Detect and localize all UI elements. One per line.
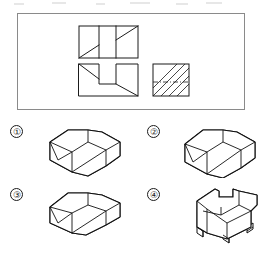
isometric-solid-3 [50,193,120,235]
option-1-number: ① [10,125,23,138]
option-2[interactable]: ② [145,120,260,178]
problem-sheet: ① [0,0,263,259]
option-3[interactable]: ③ [8,183,120,241]
top-view [79,26,138,58]
option-2-figure [165,120,263,178]
section-hatching [145,64,209,96]
side-section-view [145,64,209,96]
option-4-figure [167,183,263,245]
isometric-solid-2 [185,130,255,178]
option-3-figure [28,183,128,239]
option-2-number: ② [147,125,160,138]
views-canvas [18,14,246,111]
option-4-number: ④ [147,188,160,201]
front-view [79,64,138,96]
option-4[interactable]: ④ [145,183,260,245]
option-3-number: ③ [10,188,23,201]
isometric-solid-1 [50,130,120,176]
option-1-figure [28,120,128,178]
orthographic-views [18,14,246,111]
isometric-solid-4 [197,189,257,243]
projection-views-frame [17,13,245,110]
page-top-artifacts [0,0,263,9]
option-1[interactable]: ① [8,120,118,178]
